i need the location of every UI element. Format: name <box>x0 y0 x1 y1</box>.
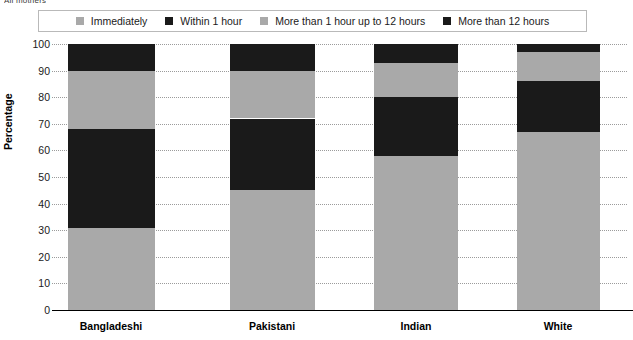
bar-segment-bangladeshi-s2 <box>68 71 155 130</box>
bar-segment-bangladeshi-s3 <box>68 44 155 71</box>
bar-segment-white-s0 <box>517 132 600 310</box>
bar-segment-indian-s1 <box>374 97 458 156</box>
bar-segment-pakistani-s2 <box>230 71 315 119</box>
bar-segment-bangladeshi-s0 <box>68 228 155 310</box>
x-axis-label-indian: Indian <box>401 320 432 332</box>
bar-indian <box>374 44 458 310</box>
bar-segment-indian-s2 <box>374 63 458 98</box>
bar-segment-pakistani-s1 <box>230 119 315 191</box>
bar-bangladeshi <box>68 44 155 310</box>
bar-segment-white-s3 <box>517 44 600 52</box>
x-axis-label-pakistani: Pakistani <box>249 320 295 332</box>
bar-pakistani <box>230 44 315 310</box>
x-axis-label-white: White <box>544 320 573 332</box>
bar-white <box>517 44 600 310</box>
bar-segment-bangladeshi-s1 <box>68 129 155 227</box>
bar-segment-white-s2 <box>517 52 600 81</box>
bar-segment-pakistani-s0 <box>230 190 315 310</box>
bar-segment-indian-s0 <box>374 156 458 310</box>
x-axis-label-bangladeshi: Bangladeshi <box>80 320 142 332</box>
bar-segment-white-s1 <box>517 81 600 132</box>
bar-segment-indian-s3 <box>374 44 458 63</box>
bar-segment-pakistani-s3 <box>230 44 315 71</box>
chart-plot-area: Percentage 0102030405060708090100 Bangla… <box>0 0 633 340</box>
chart-bars: BangladeshiPakistaniIndianWhite <box>0 0 633 340</box>
